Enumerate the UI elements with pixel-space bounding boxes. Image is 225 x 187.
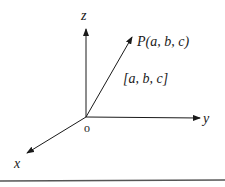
y-axis-label: y (201, 111, 210, 126)
z-axis-label: z (80, 8, 87, 23)
x-axis-label: x (13, 156, 21, 171)
y-axis (86, 117, 200, 118)
bottom-divider (0, 180, 225, 181)
coordinate-diagram: z y x o P(a, b, c) [a, b, c] (0, 0, 225, 187)
x-axis (27, 117, 86, 153)
origin-label: o (84, 121, 90, 135)
vector-label: [a, b, c] (123, 71, 168, 86)
point-label: P(a, b, c) (136, 34, 189, 50)
